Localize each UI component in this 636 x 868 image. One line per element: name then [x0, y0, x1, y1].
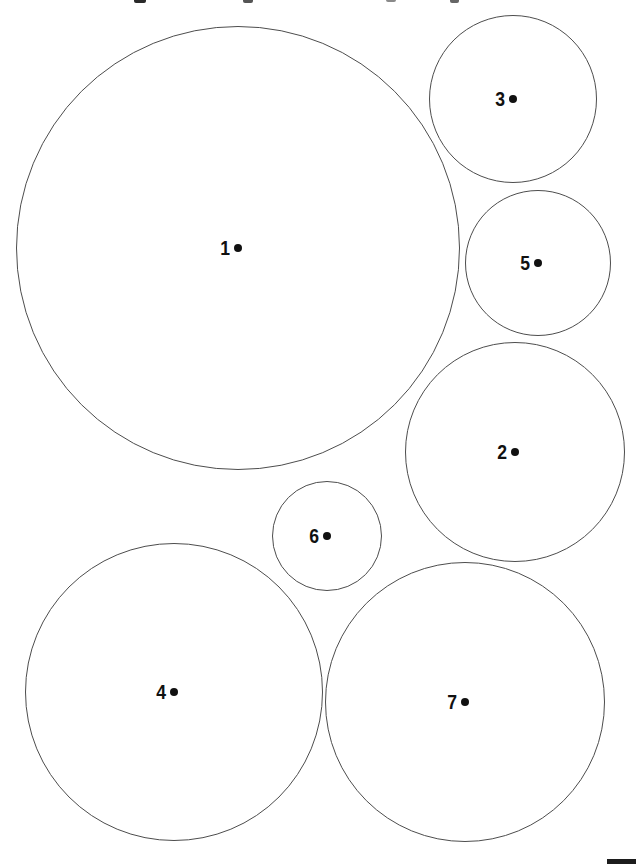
- clipped-header-text-fragment: [450, 0, 459, 3]
- clipped-header-text-fragment: [134, 0, 146, 3]
- corner-black-bar: [607, 859, 636, 864]
- clipped-header-text-fragment: [243, 0, 253, 3]
- circle-2-label: 2: [475, 441, 507, 463]
- circle-1-label: 1: [198, 237, 230, 259]
- circle-5-center-dot: [534, 259, 542, 267]
- circle-1-center-dot: [234, 244, 242, 252]
- circle-3-center-dot: [509, 95, 517, 103]
- circle-2-center-dot: [511, 448, 519, 456]
- circle-5-label: 5: [498, 252, 530, 274]
- circle-4-label: 4: [134, 681, 166, 703]
- circle-4-center-dot: [170, 688, 178, 696]
- circle-6-center-dot: [323, 532, 331, 540]
- scanned-figure-page: 1234567: [0, 0, 636, 868]
- circle-6-label: 6: [287, 525, 319, 547]
- clipped-header-text-fragment: [386, 0, 396, 2]
- circle-3-label: 3: [473, 88, 505, 110]
- circle-7-label: 7: [425, 691, 457, 713]
- circle-7-center-dot: [461, 698, 469, 706]
